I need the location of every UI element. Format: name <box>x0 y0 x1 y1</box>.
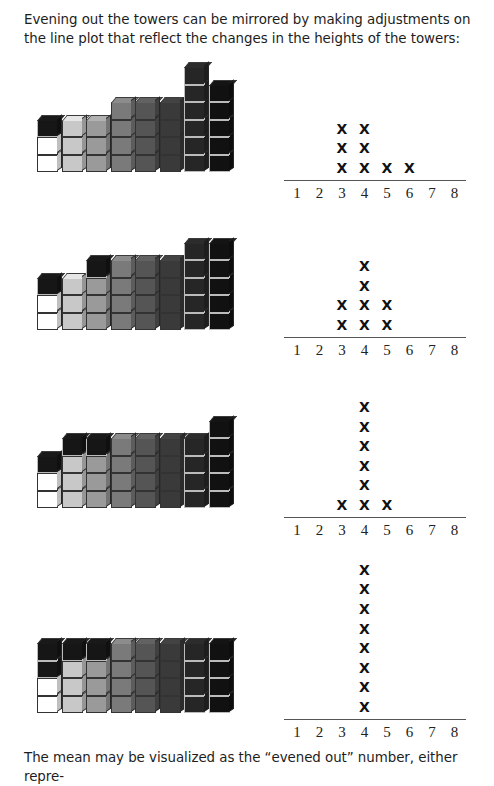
cube <box>209 313 230 331</box>
tower-6 <box>160 260 182 330</box>
axis-tick-label: 4 <box>355 185 375 202</box>
axis-tick-label: 6 <box>400 522 420 539</box>
cube <box>135 137 156 155</box>
tower-7 <box>184 438 206 508</box>
x-mark: X <box>357 420 373 434</box>
x-mark: X <box>357 279 373 293</box>
x-mark: X <box>334 318 350 332</box>
x-mark: X <box>357 318 373 332</box>
cube <box>111 678 132 696</box>
axis-tick-label: 8 <box>445 185 465 202</box>
axis-tick-label: 2 <box>310 724 330 741</box>
cube <box>37 473 58 491</box>
tower-3 <box>86 438 108 508</box>
x-mark: X <box>357 439 373 453</box>
cube <box>209 278 230 296</box>
cube <box>111 313 132 331</box>
tower-8 <box>209 643 231 713</box>
cube <box>37 313 58 331</box>
axis-tick-label: 4 <box>355 724 375 741</box>
cube <box>160 295 181 313</box>
cube <box>209 491 230 509</box>
cube <box>37 661 58 679</box>
cube <box>37 491 58 509</box>
tower-5 <box>135 438 157 508</box>
tower-4 <box>111 102 133 172</box>
cube <box>160 643 181 661</box>
cube <box>86 678 107 696</box>
axis-tick-label: 5 <box>377 185 397 202</box>
x-mark: X <box>357 459 373 473</box>
axis-tick-label: 3 <box>332 522 352 539</box>
cube <box>160 137 181 155</box>
x-mark: X <box>357 700 373 714</box>
tower-2 <box>62 120 84 173</box>
cube <box>209 295 230 313</box>
cube <box>86 456 107 474</box>
cube <box>160 491 181 509</box>
tower-1 <box>37 643 59 713</box>
cube <box>184 67 205 85</box>
cube <box>62 438 83 456</box>
x-mark: X <box>357 602 373 616</box>
axis-tick-label: 7 <box>422 342 442 359</box>
axis-tick-label: 6 <box>400 342 420 359</box>
cube <box>111 278 132 296</box>
axis-tick-label: 8 <box>445 522 465 539</box>
cube <box>209 661 230 679</box>
tower-4 <box>111 438 133 508</box>
axis-tick-label: 4 <box>355 522 375 539</box>
cube <box>209 85 230 103</box>
cube <box>184 295 205 313</box>
cube <box>209 696 230 714</box>
tower-6 <box>160 102 182 172</box>
cube <box>86 278 107 296</box>
axis-tick-label: 7 <box>422 724 442 741</box>
cube <box>86 313 107 331</box>
cube <box>37 678 58 696</box>
cube <box>86 643 107 661</box>
cube <box>184 473 205 491</box>
x-mark: X <box>334 498 350 512</box>
cube <box>160 456 181 474</box>
intro-paragraph: Evening out the towers can be mirrored b… <box>24 10 484 48</box>
cube <box>111 137 132 155</box>
cube <box>37 295 58 313</box>
cube <box>62 137 83 155</box>
cube <box>111 491 132 509</box>
axis-tick-label: 6 <box>400 185 420 202</box>
x-mark: X <box>379 161 395 175</box>
cube <box>160 696 181 714</box>
x-mark: X <box>334 161 350 175</box>
cube <box>209 473 230 491</box>
cube <box>111 473 132 491</box>
cube <box>86 661 107 679</box>
x-mark: X <box>357 478 373 492</box>
cube <box>209 678 230 696</box>
axis-tick-label: 2 <box>310 185 330 202</box>
cube <box>86 137 107 155</box>
cube <box>184 260 205 278</box>
cube <box>184 102 205 120</box>
tower-8 <box>209 421 231 509</box>
cube <box>160 678 181 696</box>
tower-2 <box>62 643 84 713</box>
cube <box>209 643 230 661</box>
cube <box>184 678 205 696</box>
tower-6 <box>160 438 182 508</box>
cube <box>184 155 205 173</box>
cube <box>160 473 181 491</box>
cube <box>160 438 181 456</box>
x-mark: X <box>357 259 373 273</box>
x-mark: X <box>402 161 418 175</box>
cube <box>184 661 205 679</box>
cube <box>37 137 58 155</box>
cube <box>62 643 83 661</box>
cube <box>184 491 205 509</box>
cube <box>135 155 156 173</box>
cube <box>111 456 132 474</box>
cube <box>135 278 156 296</box>
cube <box>62 491 83 509</box>
tower-1 <box>37 278 59 331</box>
cube <box>135 120 156 138</box>
